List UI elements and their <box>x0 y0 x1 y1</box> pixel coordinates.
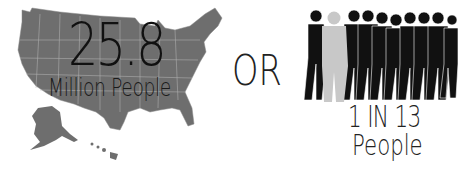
or-separator: OR <box>232 50 282 92</box>
population-unit: Million People <box>48 76 171 100</box>
population-number: 25.8 <box>68 16 164 74</box>
crowd-silhouettes-graphic <box>300 8 460 102</box>
ratio-unit: People <box>352 132 423 160</box>
ratio-text: 1 IN 13 <box>348 102 420 132</box>
